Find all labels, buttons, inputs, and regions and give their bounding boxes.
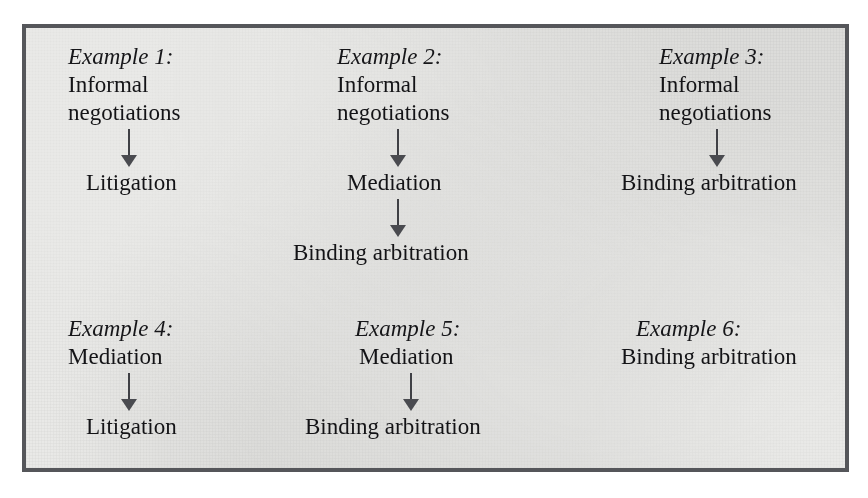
example-2-down-arrow-icon-2 — [337, 197, 567, 239]
example-5-label: Example 5: — [337, 315, 577, 343]
example-1-step-1-line-1: Informal — [68, 71, 278, 99]
example-2-step-1-line-2: negotiations — [337, 99, 567, 127]
bleed-top-line — [8, 0, 860, 21]
example-1-label: Example 1: — [68, 43, 278, 71]
example-5: Example 5: Mediation Binding arbitration — [337, 315, 577, 441]
example-3-step-1-line-1: Informal — [621, 71, 849, 99]
example-1-down-arrow-icon — [68, 127, 278, 169]
example-4-down-arrow-icon — [68, 371, 278, 413]
example-6-label: Example 6: — [621, 315, 849, 343]
example-3-label: Example 3: — [621, 43, 849, 71]
example-4: Example 4: Mediation Litigation — [68, 315, 278, 441]
example-3-step-1-line-2: negotiations — [621, 99, 849, 127]
bleed-bottom-line — [8, 474, 860, 498]
example-2-label: Example 2: — [337, 43, 567, 71]
example-1-step-2-line-1: Litigation — [68, 169, 278, 197]
example-3-step-2-line-1: Binding arbitration — [621, 169, 849, 197]
example-2-step-3-line-1: Binding arbitration — [293, 239, 567, 267]
example-6-step-1-line-1: Binding arbitration — [621, 343, 849, 371]
example-3-down-arrow-icon — [621, 127, 849, 169]
example-5-down-arrow-icon — [337, 371, 577, 413]
example-6: Example 6: Binding arbitration — [621, 315, 849, 371]
example-1-step-1-line-2: negotiations — [68, 99, 278, 127]
example-5-step-2-line-1: Binding arbitration — [305, 413, 577, 441]
examples-grid: Example 1: Informal negotiations Litigat… — [26, 28, 845, 468]
example-3: Example 3: Informal negotiations Binding… — [621, 43, 849, 197]
example-1: Example 1: Informal negotiations Litigat… — [68, 43, 278, 197]
example-5-step-1-line-1: Mediation — [337, 343, 577, 371]
example-2: Example 2: Informal negotiations Mediati… — [337, 43, 567, 267]
figure-frame: Example 1: Informal negotiations Litigat… — [22, 24, 849, 472]
example-4-label: Example 4: — [68, 315, 278, 343]
example-2-step-2-line-1: Mediation — [337, 169, 567, 197]
example-4-step-1-line-1: Mediation — [68, 343, 278, 371]
example-2-down-arrow-icon-1 — [337, 127, 567, 169]
example-4-step-2-line-1: Litigation — [68, 413, 278, 441]
example-2-step-1-line-1: Informal — [337, 71, 567, 99]
